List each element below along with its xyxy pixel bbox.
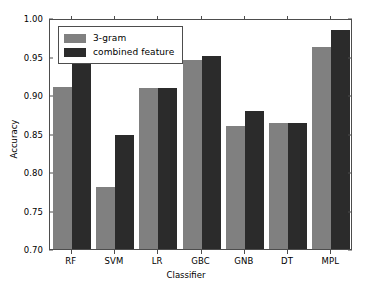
bar-chart-figure: 0.700.750.800.850.900.951.00 Accuracy RF… — [0, 0, 372, 288]
y-tick-mark-right — [348, 57, 352, 58]
x-tick-mark-top — [287, 16, 288, 20]
bar — [202, 56, 221, 249]
y-tick-mark — [49, 96, 53, 97]
x-tick-mark-top — [114, 16, 115, 20]
x-tick-label: SVM — [104, 256, 123, 266]
x-tick-label: DT — [281, 256, 293, 266]
legend-label-3-gram: 3-gram — [93, 33, 126, 43]
y-tick-mark — [49, 173, 53, 174]
y-tick-mark-right — [348, 211, 352, 212]
x-tick-label: MPL — [322, 256, 340, 266]
bar — [288, 123, 307, 249]
y-axis-label: Accuracy — [9, 94, 19, 184]
legend-swatch-3-gram — [64, 34, 86, 43]
y-tick-label: 0.75 — [24, 207, 43, 217]
bar — [269, 123, 288, 249]
y-tick-label: 0.80 — [24, 168, 43, 178]
x-tick-mark — [287, 250, 288, 254]
x-tick-mark — [157, 250, 158, 254]
bar — [158, 88, 177, 249]
x-tick-label: GNB — [234, 256, 253, 266]
x-tick-mark-top — [157, 16, 158, 20]
bar — [245, 111, 264, 249]
bar — [331, 30, 350, 249]
x-tick-label: RF — [65, 256, 76, 266]
legend-swatch-combined-feature — [64, 48, 86, 57]
y-tick-label: 0.90 — [24, 91, 43, 101]
y-tick-mark-right — [348, 19, 352, 20]
bar — [183, 60, 202, 249]
y-tick-label: 0.95 — [24, 53, 43, 63]
legend-entry-3-gram: 3-gram — [64, 31, 174, 45]
bar — [96, 187, 115, 249]
y-tick-mark-right — [348, 173, 352, 174]
y-tick-mark-right — [348, 134, 352, 135]
x-tick-mark — [201, 250, 202, 254]
y-tick-label: 0.85 — [24, 130, 43, 140]
bar — [115, 135, 134, 249]
y-tick-label: 0.70 — [24, 245, 43, 255]
x-tick-mark — [330, 250, 331, 254]
y-tick-mark — [49, 134, 53, 135]
legend-label-combined-feature: combined feature — [93, 47, 174, 57]
y-tick-mark — [49, 19, 53, 20]
y-tick-mark-right — [348, 250, 352, 251]
bar — [312, 47, 331, 250]
bar — [139, 88, 158, 249]
x-tick-label: LR — [152, 256, 163, 266]
y-tick-mark-right — [348, 96, 352, 97]
x-tick-mark-top — [244, 16, 245, 20]
y-tick-label: 1.00 — [24, 14, 43, 24]
x-tick-mark — [114, 250, 115, 254]
x-tick-mark-top — [71, 16, 72, 20]
x-tick-mark-top — [201, 16, 202, 20]
x-axis-label: Classifier — [0, 270, 372, 280]
y-tick-mark — [49, 250, 53, 251]
x-tick-mark — [71, 250, 72, 254]
legend-entry-combined-feature: combined feature — [64, 45, 174, 59]
x-tick-label: GBC — [191, 256, 210, 266]
bar — [53, 87, 72, 249]
bar — [72, 57, 91, 249]
x-tick-mark — [244, 250, 245, 254]
bar — [226, 126, 245, 249]
x-tick-mark-top — [330, 16, 331, 20]
y-tick-mark — [49, 211, 53, 212]
chart-legend: 3-gram combined feature — [58, 26, 183, 64]
y-tick-mark — [49, 57, 53, 58]
